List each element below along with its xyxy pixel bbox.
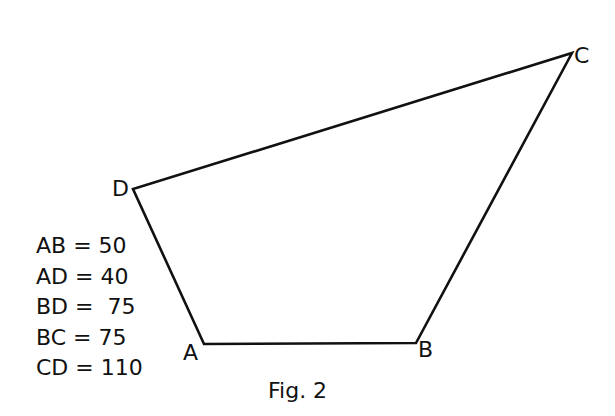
figure-caption: Fig. 2 <box>268 380 327 402</box>
vertex-label-a: A <box>183 342 198 364</box>
vertex-label-d: D <box>112 178 129 200</box>
vertex-label-b: B <box>418 339 433 361</box>
measurement-list: AB = 50 AD = 40 BD = 75 BC = 75 CD = 110 <box>36 231 143 384</box>
quadrilateral-abcd <box>133 53 572 344</box>
measurement-ab: AB = 50 <box>36 231 143 262</box>
measurement-bd: BD = 75 <box>36 292 143 323</box>
vertex-label-c: C <box>574 45 589 67</box>
measurement-ad: AD = 40 <box>36 262 143 293</box>
measurement-cd: CD = 110 <box>36 353 143 384</box>
measurement-bc: BC = 75 <box>36 323 143 354</box>
